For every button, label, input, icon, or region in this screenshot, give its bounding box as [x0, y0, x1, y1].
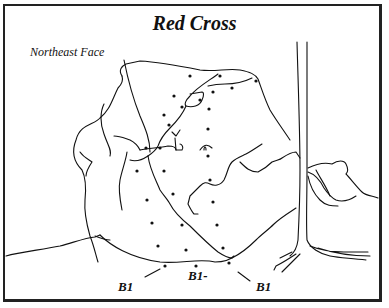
bolt-markers	[135, 74, 257, 267]
ground-line	[6, 235, 100, 256]
crack-loop	[185, 74, 218, 107]
boulder-topo-drawing	[0, 0, 389, 308]
tree-roots	[274, 252, 300, 272]
boulder-outline	[120, 61, 290, 140]
route-label-b1-left: B1	[118, 279, 133, 295]
pointer-right	[238, 272, 250, 281]
right-boulder	[308, 161, 378, 206]
route-label-b1-right: B1	[256, 279, 271, 295]
tree-trunk	[290, 42, 300, 256]
route-label-b1-minus: B1-	[188, 268, 208, 284]
pointer-left	[145, 269, 160, 277]
